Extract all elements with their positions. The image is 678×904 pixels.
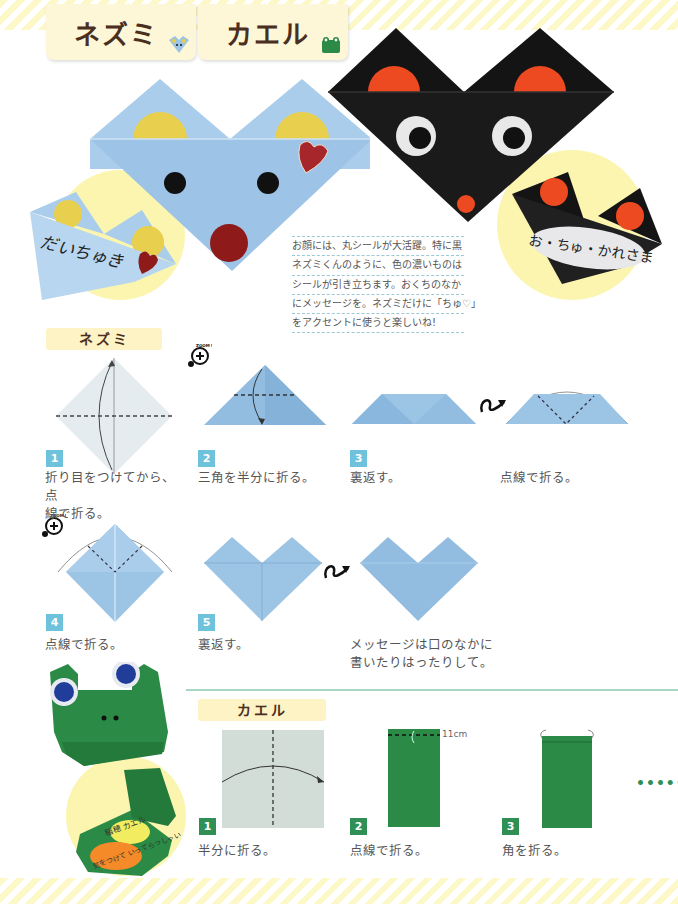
tab-frog: カエル	[198, 4, 348, 60]
measurement-label: 11cm	[442, 729, 467, 739]
caption-line: 線で折る。	[45, 505, 185, 523]
mouse-step3-diagram	[352, 394, 476, 426]
mouse-step5-caption: 裏返す。	[198, 636, 249, 654]
mouse-step4-diagram	[52, 522, 178, 624]
flip-over-icon	[322, 560, 352, 582]
note-line: ネズミくんのように、色の濃いものは	[292, 256, 464, 275]
frog-step3-caption: 角を折る。	[502, 842, 567, 860]
mouse-step3-caption: 裏返す。	[350, 469, 401, 487]
note-line: にメッセージを。ネズミだけに「ちゅ♡」	[292, 295, 464, 314]
tab-mouse: ネズミ	[46, 4, 196, 60]
mouse-step3b-caption: 点線で折る。	[500, 469, 578, 487]
mouse-step1-diagram	[56, 358, 172, 474]
step-number: 4	[46, 614, 63, 631]
frog-step1-diagram	[222, 730, 324, 828]
tab-mouse-label: ネズミ	[74, 14, 158, 51]
black-mouse-message-photo	[502, 172, 662, 284]
caption-line: 書いたりはったりして。	[350, 654, 493, 672]
frog-step2-diagram	[388, 729, 442, 827]
continued-marker: ••••••	[636, 775, 678, 791]
mouse-section-label: ネズミ	[46, 328, 162, 350]
mouse-step2-caption: 三角を半分に折る。	[198, 469, 315, 487]
mouse-finished-back-diagram	[360, 537, 478, 621]
note-line: シールが引き立ちます。おくちのなか	[292, 276, 464, 295]
mouse-step4-caption: 点線で折る。	[45, 636, 123, 654]
note-line: お顔には、丸シールが大活躍。特に黒	[292, 236, 464, 256]
mouse-message-caption: メッセージは口のなかに 書いたりはったりして。	[350, 636, 493, 672]
mouse-icon	[168, 36, 190, 54]
caption-line: 折り目をつけてから、点	[45, 469, 185, 505]
step-number: 2	[350, 818, 367, 835]
frog-origami-photo	[44, 662, 174, 766]
frog-step3-diagram	[534, 726, 598, 830]
frog-step1-caption: 半分に折る。	[198, 842, 276, 860]
mouse-step2-diagram	[204, 365, 326, 427]
mouse-step3b-diagram	[504, 380, 630, 428]
frog-section-label: カエル	[198, 699, 326, 721]
step-number: 2	[198, 450, 215, 467]
step-number: 3	[502, 818, 519, 835]
frog-step2-caption: 点線で折る。	[350, 842, 428, 860]
caption-line: メッセージは口のなかに	[350, 636, 493, 654]
mouse-step5-diagram	[204, 537, 322, 621]
mouse-step1-caption: 折り目をつけてから、点 線で折る。	[45, 469, 185, 523]
section-divider	[186, 689, 678, 691]
tips-note: お顔には、丸シールが大活躍。特に黒 ネズミくんのように、色の濃いものは シールが…	[292, 236, 464, 333]
step-number: 5	[198, 614, 215, 631]
step-number: 1	[199, 818, 216, 835]
svg-text:ZOOM UP: ZOOM UP	[196, 343, 212, 348]
tab-frog-label: カエル	[226, 14, 310, 51]
step-number: 3	[350, 450, 367, 467]
bottom-stripe-border	[0, 878, 678, 904]
step-number: 1	[46, 450, 63, 467]
note-line: をアクセントに使うと楽しいね!	[292, 314, 464, 333]
